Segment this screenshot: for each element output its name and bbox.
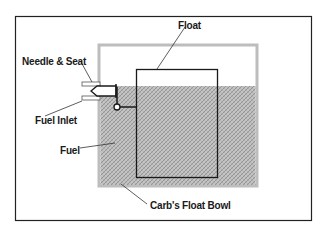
label-fuel: Fuel [60,145,80,156]
needle [91,86,116,96]
label-fuel-inlet: Fuel Inlet [35,115,77,126]
fuel-region [101,86,256,185]
float-pivot [114,104,120,110]
label-float: Float [178,20,201,31]
label-float-bowl: Carb's Float Bowl [150,200,231,211]
label-needle-seat: Needle & Seat [22,56,86,67]
